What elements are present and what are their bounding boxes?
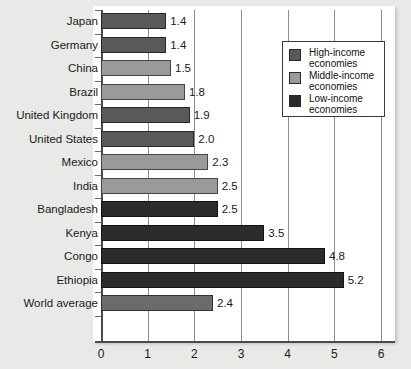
category-label: Congo	[0, 248, 98, 264]
bar	[101, 272, 344, 288]
bar-value-label: 1.5	[175, 60, 191, 76]
legend-swatch-middle-income	[289, 72, 301, 84]
chart-legend: High-income economies Middle-income econ…	[282, 41, 385, 117]
category-label: India	[0, 178, 98, 194]
legend-item-middle-income: Middle-income economies	[289, 70, 384, 93]
bar	[101, 107, 190, 123]
legend-label-low-income-line2: economies	[309, 104, 384, 115]
bar	[101, 248, 325, 264]
bar	[101, 225, 264, 241]
y-axis-tick	[95, 222, 101, 223]
y-axis-tick	[95, 128, 101, 129]
bar-value-label: 1.4	[170, 37, 186, 53]
y-axis-tick	[95, 104, 101, 105]
bar	[101, 60, 171, 76]
y-axis-tick	[95, 292, 101, 293]
bar-row: World average2.4	[0, 292, 411, 316]
legend-label-middle-income-line1: Middle-income	[309, 70, 384, 81]
x-tick-label: 4	[273, 347, 303, 361]
bar-row: Mexico2.3	[0, 151, 411, 175]
bar-row: Congo4.8	[0, 245, 411, 269]
bar	[101, 201, 218, 217]
bar-value-label: 2.3	[212, 154, 228, 170]
bar-value-label: 1.4	[170, 13, 186, 29]
bar-row: Japan1.4	[0, 10, 411, 34]
category-label: Kenya	[0, 225, 98, 241]
y-axis-tick	[95, 34, 101, 35]
x-tick-label: 2	[179, 347, 209, 361]
bar	[101, 131, 194, 147]
category-label: United States	[0, 131, 98, 147]
x-tick-label: 6	[366, 347, 396, 361]
bar-value-label: 1.8	[189, 84, 205, 100]
x-tick-label: 1	[133, 347, 163, 361]
bar	[101, 178, 218, 194]
category-label: Mexico	[0, 154, 98, 170]
legend-label-high-income-line1: High-income	[309, 47, 384, 58]
y-axis-tick	[95, 10, 101, 11]
bar-row: Kenya3.5	[0, 222, 411, 246]
category-label: Brazil	[0, 84, 98, 100]
category-label: Germany	[0, 37, 98, 53]
x-axis-line	[95, 341, 395, 343]
y-axis-tick	[95, 316, 101, 317]
legend-swatch-high-income	[289, 49, 301, 61]
y-axis-tick	[95, 81, 101, 82]
bar-value-label: 5.2	[348, 272, 364, 288]
bar-value-label: 2.4	[217, 295, 233, 311]
bar-value-label: 2.0	[198, 131, 214, 147]
y-axis-tick	[95, 198, 101, 199]
x-tick-label: 0	[86, 347, 116, 361]
bar-row: Ethiopia5.2	[0, 269, 411, 293]
x-tick-label: 3	[226, 347, 256, 361]
y-axis-tick	[95, 269, 101, 270]
bar	[101, 84, 185, 100]
bar-value-label: 3.5	[268, 225, 284, 241]
y-axis-tick	[95, 151, 101, 152]
y-axis-tick	[95, 245, 101, 246]
category-label: Bangladesh	[0, 201, 98, 217]
category-label: Ethiopia	[0, 272, 98, 288]
bar	[101, 37, 166, 53]
y-axis-tick	[95, 57, 101, 58]
category-label: United Kingdom	[0, 107, 98, 123]
bar-value-label: 1.9	[194, 107, 210, 123]
bar	[101, 295, 213, 311]
x-tick-label: 5	[319, 347, 349, 361]
category-label: China	[0, 60, 98, 76]
y-axis-tick	[95, 175, 101, 176]
legend-item-high-income: High-income economies	[289, 47, 384, 70]
legend-item-low-income: Low-income economies	[289, 93, 384, 116]
bar	[101, 154, 208, 170]
bar	[101, 13, 166, 29]
category-label: Japan	[0, 13, 98, 29]
legend-swatch-low-income	[289, 95, 301, 107]
legend-label-high-income-line2: economies	[309, 58, 384, 69]
bar-value-label: 2.5	[222, 178, 238, 194]
bar-value-label: 4.8	[329, 248, 345, 264]
bar-row: Bangladesh2.5	[0, 198, 411, 222]
bar-row: India2.5	[0, 175, 411, 199]
legend-label-low-income-line1: Low-income	[309, 93, 384, 104]
chart-root: Japan1.4Germany1.4China1.5Brazil1.8Unite…	[0, 0, 411, 369]
bar-row: United States2.0	[0, 128, 411, 152]
category-label: World average	[0, 295, 98, 311]
legend-label-middle-income-line2: economies	[309, 81, 384, 92]
bar-value-label: 2.5	[222, 201, 238, 217]
